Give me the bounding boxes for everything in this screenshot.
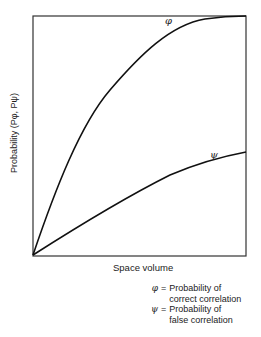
- x-axis-label: Space volume: [113, 262, 173, 273]
- phi-description: Probability of correct correlation: [169, 283, 241, 304]
- plot-frame: [33, 16, 246, 256]
- psi-desc-line1: Probability of: [169, 304, 233, 315]
- phi-symbol: φ: [144, 283, 158, 304]
- psi-symbol: ψ: [144, 304, 158, 325]
- phi-desc-line1: Probability of: [169, 283, 241, 294]
- legend-item-phi: φ = Probability of correct correlation: [144, 283, 241, 304]
- psi-curve-label: ψ: [210, 149, 218, 160]
- phi-curve: [33, 16, 246, 255]
- equals-sign: =: [161, 283, 166, 304]
- psi-desc-line2: false correlation: [169, 315, 233, 326]
- equals-sign: =: [161, 304, 166, 325]
- psi-description: Probability of false correlation: [169, 304, 233, 325]
- phi-desc-line2: correct correlation: [169, 294, 241, 305]
- y-axis-label: Probability (Pφ, Pψ): [9, 83, 19, 183]
- legend-item-psi: ψ = Probability of false correlation: [144, 304, 241, 325]
- legend: φ = Probability of correct correlation ψ…: [144, 283, 241, 325]
- phi-curve-label: φ: [165, 15, 172, 26]
